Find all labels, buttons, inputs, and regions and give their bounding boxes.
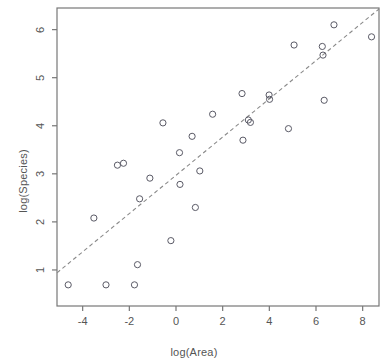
x-tick-label: -4 xyxy=(78,315,88,327)
x-tick-label: -2 xyxy=(124,315,134,327)
x-tick-label: 2 xyxy=(220,315,226,327)
data-point xyxy=(120,160,126,166)
data-point xyxy=(239,90,245,96)
data-point xyxy=(176,150,182,156)
data-point xyxy=(291,42,297,48)
data-point xyxy=(160,120,166,126)
data-point xyxy=(131,282,137,288)
y-tick-label: 4 xyxy=(34,119,46,133)
data-point xyxy=(210,111,216,117)
data-point xyxy=(285,126,291,132)
data-point xyxy=(319,43,325,49)
y-tick-label: 5 xyxy=(34,71,46,85)
data-point xyxy=(368,34,374,40)
data-point xyxy=(192,204,198,210)
data-point xyxy=(147,175,153,181)
data-point xyxy=(240,137,246,143)
data-point xyxy=(137,196,143,202)
regression-line xyxy=(57,9,379,273)
data-point xyxy=(168,238,174,244)
y-tick-label: 2 xyxy=(34,215,46,229)
plot-canvas xyxy=(0,0,388,362)
x-tick-label: 6 xyxy=(313,315,319,327)
data-point xyxy=(65,282,71,288)
y-tick-label: 6 xyxy=(34,23,46,37)
x-tick-label: 8 xyxy=(360,315,366,327)
y-tick-label: 3 xyxy=(34,167,46,181)
plot-frame xyxy=(57,8,379,306)
data-point xyxy=(134,262,140,268)
x-tick-label: 0 xyxy=(173,315,179,327)
x-axis-label: log(Area) xyxy=(0,346,388,358)
data-point xyxy=(114,162,120,168)
data-point xyxy=(103,282,109,288)
data-point xyxy=(331,22,337,28)
y-axis-label: log(Species) xyxy=(17,111,31,251)
data-point xyxy=(321,97,327,103)
scatter-plot: -4-202468123456 log(Area) log(Species) xyxy=(0,0,388,362)
data-point xyxy=(197,168,203,174)
data-point xyxy=(189,133,195,139)
y-tick-label: 1 xyxy=(34,263,46,277)
data-point xyxy=(177,181,183,187)
data-point xyxy=(91,215,97,221)
x-tick-label: 4 xyxy=(266,315,272,327)
